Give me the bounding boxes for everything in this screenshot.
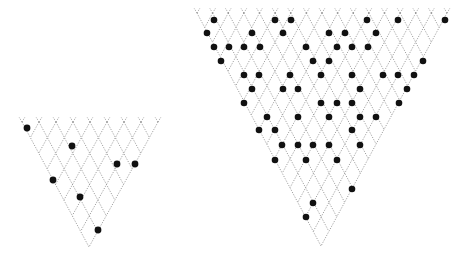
lattice-dot xyxy=(442,17,449,24)
lattice-tick xyxy=(319,8,322,13)
lattice-tick xyxy=(70,117,73,122)
lattice-dot xyxy=(295,86,302,93)
large-triangle-dots xyxy=(204,17,449,221)
lattice-tick xyxy=(53,117,56,122)
lattice-dot xyxy=(257,44,264,51)
lattice-tick xyxy=(19,117,22,122)
lattice-dot xyxy=(280,30,287,37)
lattice-dot xyxy=(396,100,403,107)
lattice-line xyxy=(416,13,431,42)
lattice-tick xyxy=(413,8,416,13)
lattice-tick xyxy=(241,8,244,13)
lattice-dot xyxy=(334,44,341,51)
lattice-tick xyxy=(353,8,356,13)
lattice-dot xyxy=(373,30,380,37)
lattice-tick xyxy=(197,8,200,13)
lattice-dot xyxy=(264,114,271,121)
lattice-dot xyxy=(365,44,372,51)
lattice-dot xyxy=(395,72,402,79)
lattice-line xyxy=(81,122,141,231)
lattice-dot xyxy=(295,142,302,149)
lattice-tick xyxy=(39,117,42,122)
lattice-line xyxy=(298,13,400,202)
lattice-line xyxy=(306,13,376,144)
lattice-dot xyxy=(226,44,233,51)
lattice-line xyxy=(313,13,431,231)
lattice-dot xyxy=(249,30,256,37)
lattice-tick xyxy=(447,8,450,13)
lattice-dot xyxy=(349,44,356,51)
lattice-line xyxy=(228,13,336,217)
lattice-dot xyxy=(342,30,349,37)
lattice-dot xyxy=(380,72,387,79)
lattice-dot xyxy=(334,157,341,164)
lattice-tick xyxy=(366,8,369,13)
lattice-tick xyxy=(288,8,291,13)
lattice-tick xyxy=(257,8,260,13)
lattice-dot xyxy=(349,127,356,134)
lattice-tick xyxy=(428,8,431,13)
lattice-tick xyxy=(431,8,434,13)
lattice-tick xyxy=(260,8,263,13)
lattice-tick xyxy=(416,8,419,13)
lattice-dot xyxy=(395,17,402,24)
lattice-dot xyxy=(50,177,57,184)
lattice-line xyxy=(275,13,360,173)
lattice-tick xyxy=(225,8,228,13)
lattice-dot xyxy=(310,142,317,149)
lattice-dot xyxy=(318,100,325,107)
lattice-dot xyxy=(349,186,356,193)
lattice-tick xyxy=(213,8,216,13)
lattice-dot xyxy=(420,58,427,65)
lattice-dot xyxy=(303,44,310,51)
lattice-line xyxy=(56,122,106,216)
lattice-dot xyxy=(256,127,263,134)
lattice-tick xyxy=(87,117,90,122)
lattice-dot xyxy=(241,44,248,51)
lattice-tick xyxy=(141,117,144,122)
lattice-tick xyxy=(90,117,93,122)
lattice-tick xyxy=(56,117,59,122)
lattice-tick xyxy=(158,117,161,122)
lattice-tick xyxy=(107,117,110,122)
lattice-tick xyxy=(382,8,385,13)
small-triangle-dots xyxy=(24,125,139,234)
lattice-tick xyxy=(36,117,39,122)
lattice-dot xyxy=(357,114,364,121)
lattice-dot xyxy=(349,72,356,79)
lattice-tick xyxy=(22,117,25,122)
lattice-tick xyxy=(306,8,309,13)
lattice-dot xyxy=(357,86,364,93)
lattice-line xyxy=(244,13,345,202)
lattice-dot xyxy=(280,86,287,93)
lattice-dot xyxy=(279,142,286,149)
lattice-dot xyxy=(211,44,218,51)
lattice-dot xyxy=(241,72,248,79)
lattice-line xyxy=(228,13,259,71)
lattice-dot xyxy=(272,157,279,164)
lattice-dot xyxy=(310,58,317,65)
lattice-line xyxy=(338,13,392,115)
lattice-tick xyxy=(228,8,231,13)
lattice-dot xyxy=(303,214,310,221)
lattice-tick xyxy=(121,117,124,122)
lattice-dot xyxy=(249,86,256,93)
lattice-tick xyxy=(73,117,76,122)
lattice-dot xyxy=(411,72,418,79)
small-triangle-lines xyxy=(19,117,161,247)
lattice-line xyxy=(73,122,115,200)
lattice-tick xyxy=(210,8,213,13)
lattice-dot xyxy=(295,114,302,121)
lattice-tick xyxy=(369,8,372,13)
lattice-dot xyxy=(349,100,356,107)
lattice-dot xyxy=(69,143,76,150)
lattice-dot xyxy=(77,194,84,201)
lattice-tick xyxy=(244,8,247,13)
large-triangle-lattice xyxy=(194,8,450,246)
lattice-dot xyxy=(303,157,310,164)
lattice-tick xyxy=(385,8,388,13)
lattice-dot xyxy=(204,30,211,37)
lattice-tick xyxy=(444,8,447,13)
lattice-dot xyxy=(114,161,121,168)
lattice-line xyxy=(369,13,408,86)
